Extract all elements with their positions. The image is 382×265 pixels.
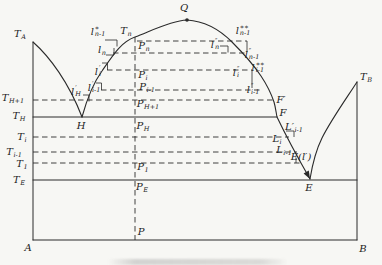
step-mark-l-dpr-n (220, 46, 228, 53)
liquidus-a-curve (33, 42, 82, 117)
step-mark-l-n (106, 48, 114, 55)
liquidus-b-curve (310, 82, 357, 179)
phase-diagram-figure: TATH+1THTiTi-1T1TEABPQTBTnPnPiPi-1PH+1PH… (0, 0, 382, 265)
step-mark-l-star-n-1 (105, 40, 117, 47)
q-point-dot (185, 18, 189, 22)
e-point-arrowhead (304, 171, 310, 179)
step-mark-l-cap-pr-i-1 (286, 131, 294, 137)
diagram-canvas (0, 0, 382, 265)
step-mark-l-prime-i-1 (96, 83, 102, 90)
cutoff-caption-smudge (108, 259, 288, 265)
compound-liquidus-curve (82, 20, 310, 179)
